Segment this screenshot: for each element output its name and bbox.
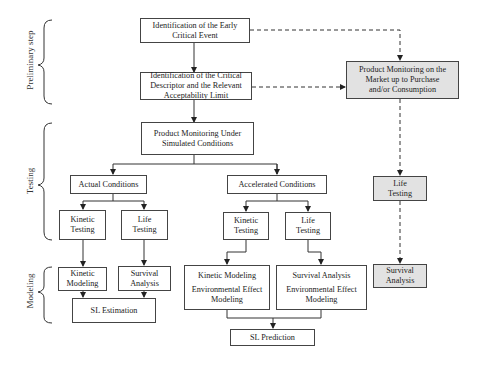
box-accelerated-conditions: Accelerated Conditions (227, 175, 327, 194)
box-text: Kinetic Modeling (198, 271, 256, 281)
box-accel-kinetic-modeling: Kinetic Modeling Environmental Effect Mo… (184, 265, 270, 310)
box-text: Survival (386, 266, 414, 276)
box-text: Testing (296, 226, 320, 236)
box-sl-estimation: SL Estimation (72, 298, 156, 323)
box-market-survival-analysis: Survival Analysis (373, 264, 427, 288)
box-text: Testing (133, 225, 157, 235)
box-actual-survival-analysis: Survival Analysis (118, 266, 171, 291)
box-text: Life (301, 216, 315, 226)
phase-label-modeling: Modeling (25, 261, 35, 321)
box-text: Environmental Effect (192, 285, 263, 295)
box-early-critical-event: Identification of the Early Critical Eve… (140, 18, 250, 43)
box-text: Critical Event (172, 31, 218, 41)
box-text: Analysis (386, 276, 415, 286)
phase-label-preliminary: Preliminary step (25, 20, 35, 100)
box-critical-descriptor: Identification of the Critical Descripto… (140, 72, 252, 100)
box-text: Analysis (130, 279, 159, 289)
box-text: Product Monitoring on the (359, 65, 446, 75)
box-text: Testing (234, 226, 258, 236)
box-actual-kinetic-testing: Kinetic Testing (59, 210, 106, 240)
phase-label-testing: Testing (25, 151, 35, 211)
box-text: Simulated Conditions (162, 139, 233, 149)
box-monitoring-market: Product Monitoring on the Market up to P… (346, 61, 459, 99)
box-text: SL Prediction (250, 333, 295, 343)
box-actual-life-testing: Life Testing (121, 210, 168, 240)
box-text: and/or Consumption (369, 85, 436, 95)
box-text: Descriptor and the Relevant (150, 81, 242, 91)
box-text: Modeling (211, 295, 243, 305)
box-accel-kinetic-testing: Kinetic Testing (223, 212, 269, 240)
box-text: Product Monitoring Under (154, 129, 241, 139)
box-actual-kinetic-modeling: Kinetic Modeling (58, 267, 107, 291)
box-text: Market up to Purchase (366, 75, 440, 85)
box-accel-life-testing: Life Testing (285, 212, 331, 240)
box-market-life-testing: Life Testing (373, 176, 427, 201)
box-text: Modeling (306, 295, 338, 305)
box-text: Life (138, 215, 152, 225)
box-text: Survival Analysis (293, 271, 351, 281)
box-actual-conditions: Actual Conditions (70, 175, 147, 194)
box-text: Testing (388, 189, 412, 199)
box-text: Environmental Effect (286, 285, 357, 295)
box-text: Modeling (67, 279, 99, 289)
box-text: Kinetic (70, 215, 94, 225)
box-text: Acceptability Limit (164, 91, 228, 101)
box-text: Identification of the Critical (150, 71, 242, 81)
box-text: Actual Conditions (79, 180, 139, 190)
box-text: Survival (131, 269, 159, 279)
box-text: Testing (71, 225, 95, 235)
box-text: Kinetic (234, 216, 258, 226)
box-text: Accelerated Conditions (238, 180, 315, 190)
box-text: Identification of the Early (153, 21, 238, 31)
box-monitoring-simulated: Product Monitoring Under Simulated Condi… (141, 122, 254, 155)
box-accel-survival-analysis: Survival Analysis Environmental Effect M… (276, 265, 367, 310)
box-sl-prediction: SL Prediction (230, 329, 315, 346)
box-text: SL Estimation (91, 306, 138, 316)
box-text: Life (393, 179, 407, 189)
box-text: Kinetic (70, 269, 94, 279)
